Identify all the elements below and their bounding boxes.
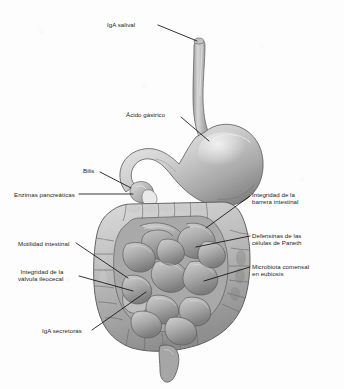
organ-duodenum bbox=[130, 182, 157, 206]
callout-label-enzimas-pancreaticas: Enzimas pancreáticas bbox=[14, 191, 75, 198]
callout-label-acido-gastrico: Ácido gástrico bbox=[126, 111, 165, 118]
callout-label-integridad-valvula-ileocecal: Integridad de la válvula ileocecal bbox=[18, 268, 63, 283]
callout-label-iga-salival: IgA salival bbox=[107, 21, 135, 28]
organ-esophagus bbox=[193, 38, 209, 137]
callout-label-iga-secretoras: IgA secretoras bbox=[42, 327, 82, 334]
callout-label-defensinas-celulas-paneth: Defensinas de las células de Paneth bbox=[252, 232, 301, 247]
callout-label-microbiota-comensal-eubiosis: Microbiota comensal en eubiosis bbox=[252, 263, 309, 278]
leader-line-iga-salival bbox=[158, 25, 197, 41]
organ-rectum bbox=[159, 345, 179, 382]
callout-label-motilidad-intestinal: Motilidad intestinal bbox=[18, 240, 69, 247]
callout-label-bilis: Bilis bbox=[83, 167, 94, 174]
callout-label-integridad-barrera-intestinal: Integridad de la barrera intestinal bbox=[252, 191, 299, 206]
